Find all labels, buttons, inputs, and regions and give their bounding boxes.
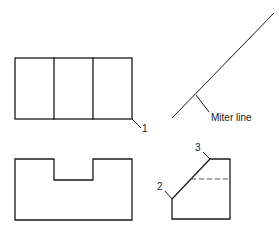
leader-2 bbox=[165, 191, 172, 199]
side-view-outline bbox=[172, 159, 230, 219]
miter-line bbox=[172, 13, 274, 118]
top-view: 1 bbox=[15, 58, 148, 134]
miter-label: Miter line bbox=[211, 112, 252, 123]
front-view bbox=[15, 159, 132, 220]
leader-3 bbox=[203, 152, 210, 159]
leader-1 bbox=[132, 119, 141, 128]
side-view: 2 3 bbox=[157, 142, 230, 219]
label-2: 2 bbox=[157, 181, 163, 192]
miter-leader bbox=[196, 95, 209, 112]
miter-line-group: Miter line bbox=[172, 13, 274, 123]
front-view-outline bbox=[15, 159, 132, 220]
label-1: 1 bbox=[142, 123, 148, 134]
orthographic-drawing: 1 Miter line 2 3 bbox=[0, 0, 279, 230]
label-3: 3 bbox=[195, 142, 201, 153]
top-view-outline bbox=[15, 58, 132, 119]
